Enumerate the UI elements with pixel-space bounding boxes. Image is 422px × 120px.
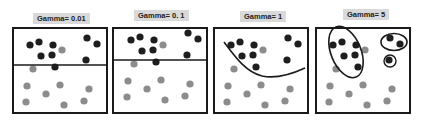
panel-3-label: Gamma= 1 <box>240 11 286 22</box>
panel-gamma-0-01 <box>12 27 108 114</box>
panel-gamma-5 <box>315 27 411 114</box>
panel-1-label: Gamma= 0.01 <box>33 13 90 24</box>
panel-2-label: Gamma= 0. 1 <box>134 10 189 21</box>
panel-gamma-0-1 <box>112 27 208 114</box>
panel-gamma-1 <box>213 27 309 114</box>
panel-4-label: Gamma= 5 <box>343 9 389 20</box>
